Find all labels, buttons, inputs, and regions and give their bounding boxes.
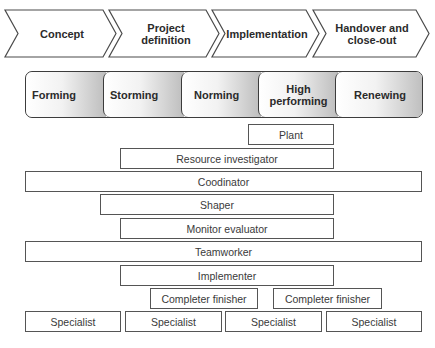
stage-high-performing: High performing bbox=[258, 72, 338, 117]
phase-concept: Concept bbox=[18, 10, 106, 57]
role-implementer: Implementer bbox=[120, 265, 334, 286]
phase-implementation: Implementation bbox=[222, 10, 312, 57]
role-label: Shaper bbox=[200, 199, 234, 211]
role-specialist: Specialist bbox=[326, 311, 422, 332]
stage-forming: Forming bbox=[26, 72, 106, 117]
role-plant: Plant bbox=[248, 124, 334, 145]
role-label: Specialist bbox=[352, 316, 397, 328]
phase-project-definition: Project definition bbox=[122, 10, 210, 57]
role-specialist: Specialist bbox=[225, 311, 322, 332]
role-label: Teamworker bbox=[195, 246, 252, 258]
role-label: Plant bbox=[279, 129, 303, 141]
role-specialist: Specialist bbox=[125, 311, 222, 332]
role-monitor-evaluator: Monitor evaluator bbox=[120, 218, 334, 239]
stage-renewing: Renewing bbox=[335, 72, 423, 117]
role-resource-investigator: Resource investigator bbox=[120, 148, 334, 169]
role-label: Specialist bbox=[51, 316, 96, 328]
stage-label: Renewing bbox=[354, 89, 406, 101]
role-label: Monitor evaluator bbox=[186, 223, 267, 235]
phase-label: Concept bbox=[40, 28, 84, 40]
team-stages-row: Forming Storming Norming High performing… bbox=[25, 71, 423, 118]
phase-label: Project definition bbox=[141, 22, 191, 46]
stage-norming: Norming bbox=[181, 72, 261, 117]
role-coordinator: Coodinator bbox=[25, 171, 422, 192]
role-label: Specialist bbox=[251, 316, 296, 328]
role-specialist: Specialist bbox=[25, 311, 121, 332]
stage-label: High performing bbox=[269, 83, 327, 107]
stage-label: Norming bbox=[182, 89, 239, 101]
role-label: Specialist bbox=[151, 316, 196, 328]
stage-label: Storming bbox=[104, 89, 158, 101]
role-shaper: Shaper bbox=[100, 194, 334, 215]
stage-label: Forming bbox=[26, 89, 76, 101]
phase-label: Handover and close-out bbox=[335, 22, 408, 46]
role-label: Resource investigator bbox=[176, 153, 278, 165]
role-completer-finisher: Completer finisher bbox=[150, 288, 258, 309]
role-label: Completer finisher bbox=[285, 293, 370, 305]
phase-handover-close-out: Handover and close-out bbox=[326, 10, 418, 57]
phase-label: Implementation bbox=[226, 28, 307, 40]
role-label: Coodinator bbox=[198, 176, 249, 188]
role-teamworker: Teamworker bbox=[25, 241, 422, 262]
role-label: Implementer bbox=[198, 270, 256, 282]
role-completer-finisher: Completer finisher bbox=[273, 288, 382, 309]
role-label: Completer finisher bbox=[161, 293, 246, 305]
stage-storming: Storming bbox=[103, 72, 184, 117]
